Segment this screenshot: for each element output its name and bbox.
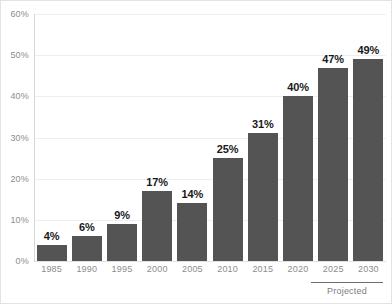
y-axis-tick-labels: 0%10%20%30%40%50%60% — [1, 14, 392, 261]
bar-chart: 4%6%9%17%14%25%31%40%47%49% 0%10%20%30%4… — [0, 0, 392, 304]
x-axis-tick-labels: 1985199019952000200520102015202020252030 — [34, 264, 386, 278]
projected-bracket-rule — [311, 282, 383, 283]
y-tick-label: 40% — [1, 91, 29, 101]
y-tick-label: 10% — [1, 215, 29, 225]
projected-annotation-label: Projected — [301, 286, 392, 296]
y-tick-label: 60% — [1, 9, 29, 19]
x-tick-label: 2030 — [347, 264, 389, 274]
gridline — [34, 261, 386, 262]
y-tick-label: 0% — [1, 256, 29, 266]
y-tick-label: 20% — [1, 174, 29, 184]
y-tick-label: 50% — [1, 50, 29, 60]
y-tick-label: 30% — [1, 133, 29, 143]
